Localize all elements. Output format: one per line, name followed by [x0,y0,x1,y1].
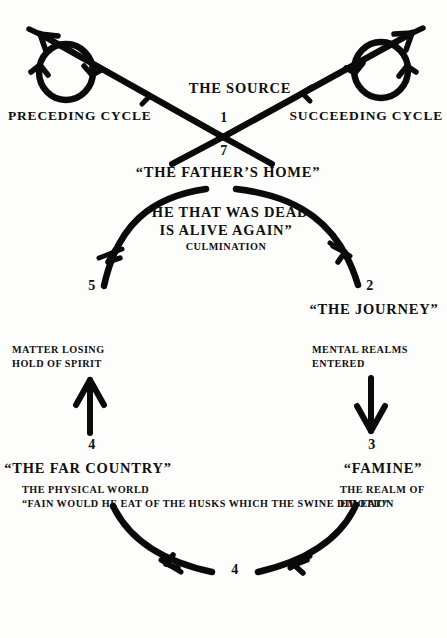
source-label: THE SOURCE [189,80,292,96]
station-3-subtitle-line1: THE REALM OF [340,484,425,495]
station-6-subtitle-line1: MATTER LOSING [12,344,105,355]
station-number-2: 2 [366,278,373,294]
station-5-subtitle-line1: THE PHYSICAL WORLD [22,484,149,495]
station-number-4-text: 4 [231,562,238,578]
arrow-5-to-6 [76,380,104,433]
station-2-subtitle-line1: MENTAL REALMS [312,344,408,355]
station-3-title: “FAMINE” [344,460,423,476]
station-number-1: 1 [220,110,227,126]
station-2-subtitle-line2: ENTERED [312,358,365,369]
station-5-subtitle-line2: “FAIN WOULD HE EAT OF THE HUSKS WHICH TH… [22,498,388,509]
culmination-quote-line2: IS ALIVE AGAIN” [160,221,293,239]
station-2-title: “THE JOURNEY” [309,301,438,317]
preceding-cycle-loop [31,44,101,100]
station-3-subtitle-line2: EMOTION [340,498,394,509]
succeeding-cycle-label: SUCCEEDING CYCLE [290,108,443,123]
culmination-quote-line1: “HE THAT WAS DEAD [144,203,308,221]
culmination-caption: CULMINATION [186,241,267,252]
station-number-7: 7 [220,143,227,159]
cycle-diagram: PRECEDING CYCLE SUCCEEDING CYCLE THE SOU… [0,0,447,638]
station-number-5: 4 [88,437,95,453]
preceding-cycle-label: PRECEDING CYCLE [8,108,152,123]
arc-4-to-5 [113,506,212,572]
station-6-subtitle-line2: HOLD OF SPIRIT [12,358,102,369]
station-number-3: 3 [368,437,375,453]
fathers-home-label: “THE FATHER’S HOME” [136,164,321,180]
arc-3-to-4 [258,505,356,573]
station-number-6: 5 [88,278,95,294]
station-5-title: “THE FAR COUNTRY” [4,460,172,476]
arrow-2-to-3 [357,378,385,431]
